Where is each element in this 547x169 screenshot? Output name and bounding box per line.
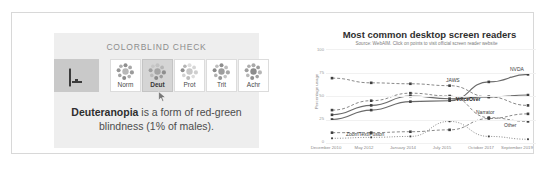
data-point[interactable] <box>527 113 530 116</box>
monitor-icon <box>69 69 84 82</box>
x-tick-0: December 2010 <box>305 145 347 150</box>
chart-subtitle: Source: WebAIM. Click on points to visit… <box>314 41 539 46</box>
data-point[interactable] <box>488 81 491 84</box>
x-tick-3: July 2015 <box>421 145 463 150</box>
y-tick-50: 50 <box>310 93 324 98</box>
y-tick-75: 75 <box>310 70 324 75</box>
screenshot-root: COLORBLIND CHECK <box>0 0 547 169</box>
data-point[interactable] <box>449 120 451 122</box>
mode-button-prot[interactable]: Prot <box>174 59 205 92</box>
series-label-jaws[interactable]: JAWS <box>446 77 460 83</box>
color-dots-icon <box>180 62 199 81</box>
data-point[interactable] <box>448 129 451 132</box>
mode-label: Achr <box>247 81 260 88</box>
x-tick-1: May 2012 <box>343 145 385 150</box>
data-point[interactable] <box>370 104 373 107</box>
gridline <box>326 49 536 50</box>
y-tick-100: 100 <box>310 47 324 52</box>
x-tick-2: January 2014 <box>382 145 424 150</box>
data-point[interactable] <box>410 136 412 138</box>
color-dots-icon <box>148 62 167 81</box>
mode-button-norm[interactable]: Norm <box>110 59 141 92</box>
data-point[interactable] <box>448 98 451 101</box>
description-term: Deuteranopia <box>71 106 138 118</box>
gridline <box>326 73 536 74</box>
data-point[interactable] <box>370 82 373 85</box>
colorblind-description: Deuteranopia is a form of red-green blin… <box>62 105 251 133</box>
data-point[interactable] <box>331 114 334 117</box>
chart-title: Most common desktop screen readers <box>322 29 537 40</box>
series-label-other[interactable]: Other <box>504 122 517 128</box>
series-label-narrator[interactable]: Narrator <box>476 109 494 115</box>
gridline <box>326 96 536 97</box>
mode-label: Deut <box>150 81 164 88</box>
screen-reader-chart: Most common desktop screen readers Sourc… <box>304 27 542 165</box>
series-label-nvda[interactable]: NVDA <box>510 66 524 72</box>
colorblind-check-panel: COLORBLIND CHECK <box>54 33 259 148</box>
data-point[interactable] <box>331 137 333 139</box>
data-point[interactable] <box>488 136 490 138</box>
mouse-cursor-icon <box>158 91 167 103</box>
y-tick-0: 0 <box>310 139 324 144</box>
data-point[interactable] <box>370 109 373 112</box>
mode-label: Norm <box>118 81 134 88</box>
data-point[interactable] <box>331 77 334 80</box>
data-point[interactable] <box>448 84 451 87</box>
colorblind-mode-list: Norm <box>110 59 269 92</box>
plot-area <box>326 49 536 143</box>
color-dots-icon <box>244 62 263 81</box>
data-point[interactable] <box>409 82 412 85</box>
mode-button-achr[interactable]: Achr <box>238 59 269 92</box>
color-dots-icon <box>212 62 231 81</box>
mode-label: Trit <box>217 81 226 88</box>
data-point[interactable] <box>527 104 530 107</box>
color-dots-icon <box>116 62 135 81</box>
series-line-narrator[interactable] <box>332 114 528 133</box>
data-point[interactable] <box>409 100 412 103</box>
gridline <box>326 143 536 144</box>
data-point[interactable] <box>409 92 412 95</box>
data-point[interactable] <box>409 130 412 133</box>
series-label-zoomtext[interactable]: ZoomText/Fusion <box>346 131 384 137</box>
data-point[interactable] <box>331 109 334 112</box>
mode-button-trit[interactable]: Trit <box>206 59 237 92</box>
series-label-voiceover[interactable]: VoiceOver <box>456 96 480 102</box>
gridline <box>326 120 536 121</box>
mode-button-deut[interactable]: Deut <box>142 59 173 92</box>
preview-swatch[interactable] <box>54 59 99 92</box>
colorblind-panel-title: COLORBLIND CHECK <box>54 42 259 52</box>
y-tick-25: 25 <box>310 116 324 121</box>
x-tick-5: September 2019 <box>496 145 538 150</box>
data-point[interactable] <box>331 131 334 134</box>
data-point[interactable] <box>370 99 373 102</box>
data-point[interactable] <box>527 138 529 140</box>
content-card: COLORBLIND CHECK <box>11 12 534 154</box>
mode-label: Prot <box>184 81 196 88</box>
